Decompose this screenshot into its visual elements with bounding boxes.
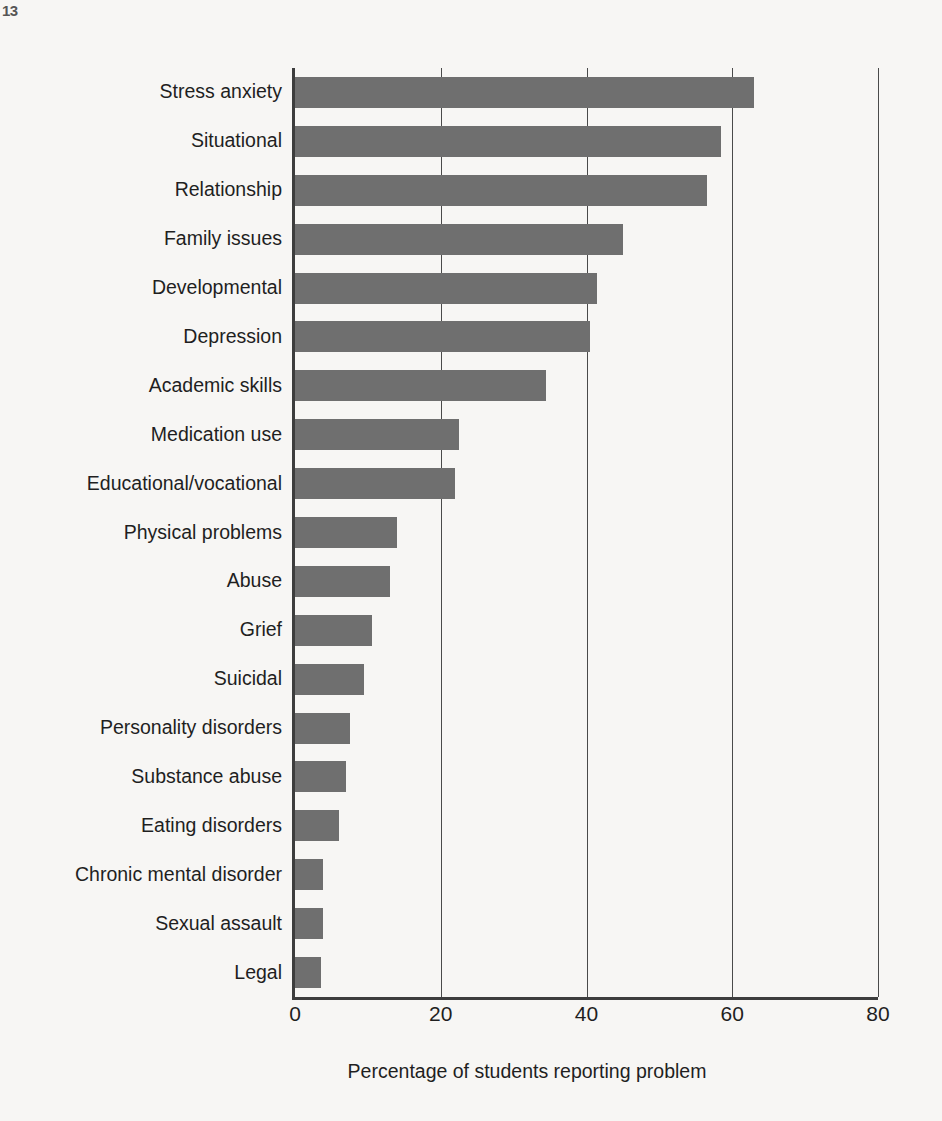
category-label: Personality disorders (0, 718, 282, 738)
bar-row (295, 312, 590, 361)
bar-row (295, 948, 321, 997)
x-axis-line (292, 997, 878, 1000)
category-label: Medication use (0, 425, 282, 445)
x-tick-label-0: 0 (289, 1002, 301, 1026)
category-label: Developmental (0, 278, 282, 298)
category-label: Depression (0, 327, 282, 347)
x-tick-label-60: 60 (721, 1002, 744, 1026)
bar (295, 566, 390, 597)
category-label: Eating disorders (0, 816, 282, 836)
bar-row (295, 68, 754, 117)
category-label: Stress anxiety (0, 82, 282, 102)
bar-row (295, 264, 597, 313)
bar (295, 77, 754, 108)
x-axis-title: Percentage of students reporting problem (0, 1060, 942, 1083)
bar-row (295, 655, 364, 704)
bar-row (295, 753, 346, 802)
category-label: Grief (0, 620, 282, 640)
bar (295, 224, 623, 255)
x-axis-title-text: Percentage of students reporting problem (348, 1060, 707, 1083)
bar (295, 321, 590, 352)
bar (295, 370, 546, 401)
bar-row (295, 215, 623, 264)
category-label: Relationship (0, 180, 282, 200)
bar (295, 810, 339, 841)
bar (295, 273, 597, 304)
bar (295, 175, 707, 206)
bar (295, 664, 364, 695)
bar-row (295, 606, 372, 655)
page-corner-mark: 13 (2, 2, 18, 19)
bar-row (295, 410, 459, 459)
gridline-80 (878, 68, 879, 997)
bar (295, 615, 372, 646)
category-label: Educational/vocational (0, 474, 282, 494)
x-tick-label-20: 20 (429, 1002, 452, 1026)
bar-row (295, 117, 721, 166)
category-axis-labels: Stress anxietySituationalRelationshipFam… (0, 68, 282, 997)
bar-series (295, 68, 878, 997)
bar-row (295, 899, 323, 948)
bar-row (295, 557, 390, 606)
bar-row (295, 801, 339, 850)
category-label: Sexual assault (0, 914, 282, 934)
category-label: Academic skills (0, 376, 282, 396)
bar-row (295, 508, 397, 557)
x-tick-label-40: 40 (575, 1002, 598, 1026)
bar (295, 908, 323, 939)
bar-row (295, 459, 455, 508)
x-tick-label-80: 80 (866, 1002, 889, 1026)
bar-row (295, 166, 707, 215)
category-label: Family issues (0, 229, 282, 249)
category-label: Physical problems (0, 523, 282, 543)
bar (295, 468, 455, 499)
bar (295, 957, 321, 988)
bar-row (295, 704, 350, 753)
category-label: Legal (0, 963, 282, 983)
bar (295, 761, 346, 792)
category-label: Situational (0, 131, 282, 151)
bar-chart-figure: 13 Stress anxietySituationalRelationship… (0, 0, 942, 1121)
bar (295, 713, 350, 744)
bar (295, 419, 459, 450)
bar-row (295, 850, 323, 899)
bar-row (295, 361, 546, 410)
bar (295, 517, 397, 548)
plot-area (295, 68, 878, 997)
category-label: Substance abuse (0, 767, 282, 787)
bar (295, 859, 323, 890)
category-label: Suicidal (0, 669, 282, 689)
category-label: Abuse (0, 571, 282, 591)
bar (295, 126, 721, 157)
category-label: Chronic mental disorder (0, 865, 282, 885)
